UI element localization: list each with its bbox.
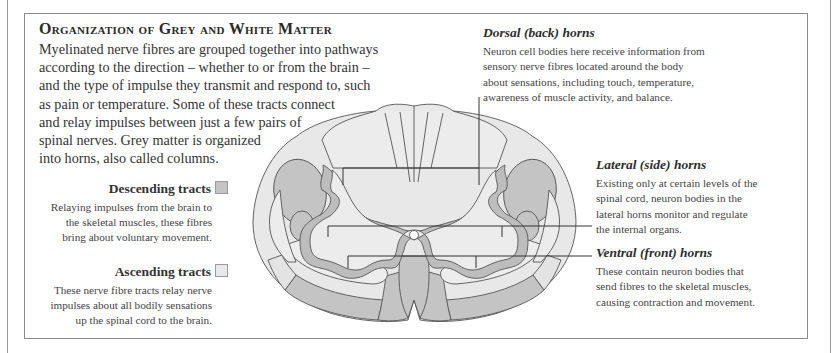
spinal-cord-cross-section: [0, 0, 834, 353]
central-canal: [410, 231, 419, 240]
